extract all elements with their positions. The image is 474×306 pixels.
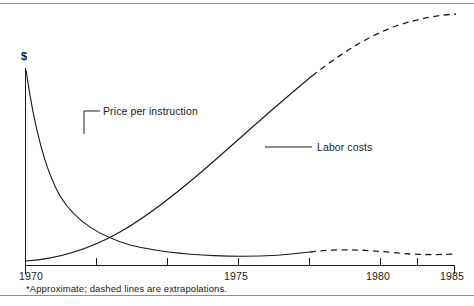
x-tick-label-1970: 1970 <box>19 270 43 282</box>
series-price-per-instruction-dashed <box>310 250 455 255</box>
series-labor-costs-solid <box>26 76 312 261</box>
series-price-per-instruction-solid <box>26 70 310 256</box>
y-axis-unit-label: $ <box>21 50 27 62</box>
chart-plot-area <box>0 0 474 306</box>
series-labor-costs-dashed <box>312 14 456 76</box>
x-tick-label-1975: 1975 <box>224 270 248 282</box>
chart-footnote: *Approximate; dashed lines are extrapola… <box>26 283 227 294</box>
price-per-instruction-leader-line <box>84 111 100 134</box>
x-tick-label-1980: 1980 <box>366 270 390 282</box>
x-tick-label-1985: 1985 <box>440 270 464 282</box>
series-label-labor-costs: Labor costs <box>317 141 372 153</box>
chart-figure: $ Price per instruction Labor costs 1970… <box>0 0 474 306</box>
series-label-price-per-instruction: Price per instruction <box>103 105 198 117</box>
